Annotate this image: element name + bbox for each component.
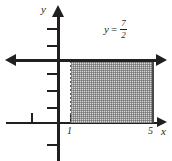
y-axis-tick xyxy=(47,28,57,30)
y-axis-tick xyxy=(47,90,57,92)
equation-fraction: 7 2 xyxy=(120,19,127,41)
y-axis-line xyxy=(57,14,60,161)
region-right-boundary xyxy=(152,61,154,123)
function-line-arrow-right-icon xyxy=(156,54,167,66)
function-line xyxy=(14,59,160,62)
fraction-denominator: 2 xyxy=(120,31,127,40)
equation-variable: y xyxy=(104,24,109,35)
y-axis-tick xyxy=(47,144,57,146)
y-axis-tick xyxy=(47,107,57,109)
x-axis-tick-negative xyxy=(31,113,33,123)
x-axis-label: x xyxy=(161,126,166,137)
function-line-arrow-left-icon xyxy=(5,54,16,66)
y-axis-label: y xyxy=(41,4,46,15)
shaded-region xyxy=(71,61,153,123)
equation-annotation: y = 7 2 xyxy=(104,19,127,41)
x-tick-label-5: 5 xyxy=(148,126,153,136)
equation-equals-sign: = xyxy=(111,24,117,35)
y-axis-tick xyxy=(47,45,57,47)
x-tick-label-1: 1 xyxy=(67,126,72,136)
fraction-numerator: 7 xyxy=(120,19,127,28)
y-axis-arrow-icon xyxy=(52,5,64,17)
region-left-boundary xyxy=(70,61,71,123)
math-figure: y x 1 5 y = 7 2 xyxy=(0,0,172,161)
y-axis-tick xyxy=(47,73,57,75)
